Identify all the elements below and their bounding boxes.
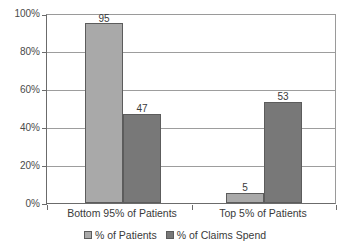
y-tick-label: 0%: [26, 199, 40, 209]
legend-label: % of Patients: [95, 229, 157, 241]
bar-value-label: 5: [226, 183, 264, 193]
legend-label: % of Claims Spend: [177, 229, 266, 241]
chart-legend: % of Patients % of Claims Spend: [0, 229, 350, 241]
plot-area: 95 47 5 53: [46, 14, 336, 204]
legend-swatch-icon: [84, 231, 92, 239]
category-label-bottom95: Bottom 95% of Patients: [67, 207, 177, 219]
legend-swatch-icon: [166, 231, 174, 239]
bar-claims-top5: [264, 102, 302, 203]
y-tick-label: 20%: [20, 161, 40, 171]
bar-claims-bottom95: [123, 114, 161, 203]
legend-item-claims-spend: % of Claims Spend: [166, 229, 266, 241]
x-axis-labels: Bottom 95% of Patients Top 5% of Patient…: [46, 207, 336, 223]
legend-item-patients: % of Patients: [84, 229, 157, 241]
y-tick-label: 80%: [20, 47, 40, 57]
bar-patients-bottom95: [85, 23, 123, 203]
bar-value-label: 53: [264, 92, 302, 102]
bar-value-label: 95: [85, 14, 123, 24]
y-tick-label: 40%: [20, 123, 40, 133]
bar-patients-top5: [226, 193, 264, 203]
bar-series-group: 95 47 5 53: [47, 15, 335, 203]
x-axis-tick-end: [336, 205, 337, 210]
y-tick-label: 100%: [14, 9, 40, 19]
y-axis-labels: 100% 80% 60% 40% 20% 0%: [0, 14, 42, 204]
bar-value-label: 47: [123, 104, 161, 114]
bar-chart: 100% 80% 60% 40% 20% 0% 95 47: [0, 0, 350, 252]
y-tick-label: 60%: [20, 85, 40, 95]
category-label-top5: Top 5% of Patients: [219, 207, 307, 219]
